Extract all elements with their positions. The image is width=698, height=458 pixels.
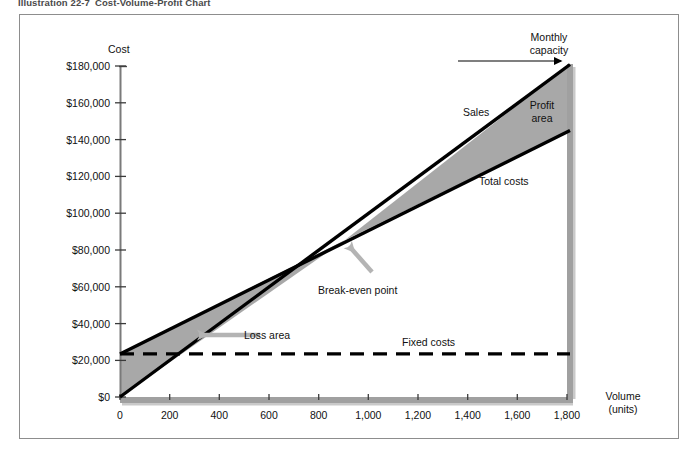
fixed-costs-label: Fixed costs [402,336,455,348]
monthly-capacity-label-line2: capacity [512,44,586,56]
total-costs-line [120,131,570,354]
total-costs-label: Total costs [479,175,529,187]
profit-area-label-line2: area [516,112,568,124]
x-tick-0: 0 [100,409,140,421]
profit-area-label-line1: Profit [516,99,568,111]
x-tick-1600: 1,600 [497,409,537,421]
x-tick-400: 400 [199,409,239,421]
break-even-arrow [349,246,372,272]
x-axis-title-units: (units) [592,403,654,415]
y-tick-40000: $40,000 [35,318,110,330]
y-tick-100000: $100,000 [35,207,110,219]
y-tick-0: $0 [35,391,110,403]
y-tick-140000: $140,000 [35,134,110,146]
y-tick-180000: $180,000 [35,60,110,72]
y-tick-60000: $60,000 [35,281,110,293]
y-tick-80000: $80,000 [35,244,110,256]
x-tick-1200: 1,200 [398,409,438,421]
x-tick-600: 600 [249,409,289,421]
x-tick-200: 200 [150,409,190,421]
x-axis-title: Volume [592,390,654,402]
y-tick-160000: $160,000 [35,97,110,109]
x-tick-1800: 1,800 [547,409,587,421]
x-tick-1000: 1,000 [348,409,388,421]
sales-line [120,65,570,398]
break-even-label: Break-even point [318,284,397,296]
x-tick-1400: 1,400 [448,409,488,421]
y-tick-20000: $20,000 [35,354,110,366]
monthly-capacity-bar-edge [573,67,576,399]
x-axis-bar-shadow [122,403,573,406]
loss-area-label: Loss area [244,329,290,341]
x-axis-bar [120,397,573,403]
monthly-capacity-label-line1: Monthly [512,31,586,43]
x-tick-800: 800 [299,409,339,421]
sales-label: Sales [463,106,489,118]
y-tick-120000: $120,000 [35,170,110,182]
y-axis-title: Cost [108,43,130,55]
